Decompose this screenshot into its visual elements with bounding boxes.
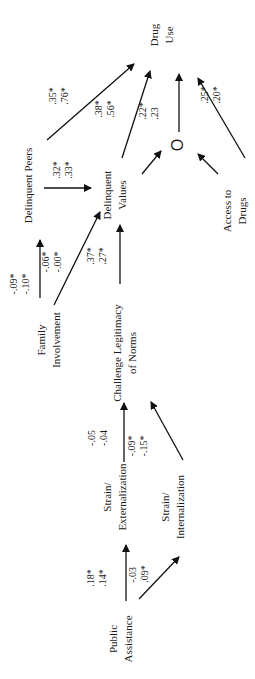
coef-public-ext: .18* .14* xyxy=(85,569,109,587)
coef-peers-druguse: .35* .76* xyxy=(47,87,71,105)
coef-values-druguse-a: .38* .56* xyxy=(93,100,117,118)
coef-access-druguse: .25* .20* xyxy=(199,86,223,104)
coef-family-peers: -.06* -.00* xyxy=(40,252,64,273)
node-delinquent-values: Delinquent Values xyxy=(100,160,130,230)
arrow-strainint-challenge xyxy=(151,402,183,460)
node-access-to-drugs: Access to Drugs xyxy=(220,181,250,241)
node-strain-externalization: Strain/ Externalization xyxy=(100,452,130,542)
coef-family-top: -.09* -.10* xyxy=(8,274,32,295)
coef-values-druguse-b: .22* .23 xyxy=(137,102,161,120)
coef-challenge-values: .37* .27* xyxy=(85,247,109,265)
arrow-access-mediator xyxy=(198,154,218,174)
coef-public-int: -.03 .09* xyxy=(127,565,151,583)
node-public-assistance: Public Assistance xyxy=(106,604,136,674)
node-challenge-legitimacy: Challenge Legitimacy of Norms xyxy=(110,298,140,408)
coef-strainint-challenge: -.09* -.15* xyxy=(126,436,150,457)
node-drug-use: Drug Use xyxy=(147,10,177,60)
node-delinquent-peers: Delinquent Peers xyxy=(21,136,36,236)
node-strain-internalization: Strain/ Internalization xyxy=(158,462,188,552)
node-family-involvement: Family Involvement xyxy=(34,305,64,375)
arrow-values-mediator xyxy=(142,151,161,174)
coef-peers-values: .32* .33* xyxy=(51,161,75,179)
coef-strainext-challenge: -.05 -.04 xyxy=(86,430,110,446)
node-mediator-o: O xyxy=(169,139,187,151)
